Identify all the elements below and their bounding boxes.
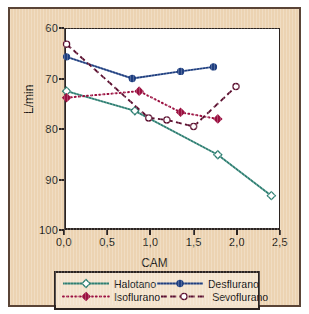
legend-label-sevoflurano: Sevoflurano bbox=[212, 291, 268, 303]
series-halotano bbox=[63, 87, 276, 200]
y-tick-label: 100 bbox=[39, 224, 58, 236]
data-point bbox=[63, 41, 69, 47]
legend-row-1: Halotano Desflurano bbox=[62, 277, 252, 290]
y-tick-label: 90 bbox=[45, 174, 58, 186]
x-tick-label: 0,0 bbox=[56, 236, 72, 248]
legend-label-halotano: Halotano bbox=[114, 278, 156, 290]
chart-legend: Halotano Desflurano Isoflurano Sevoflura… bbox=[54, 271, 260, 310]
x-axis-label: CAM bbox=[10, 256, 299, 270]
data-point bbox=[214, 115, 222, 123]
legend-swatch-desflurano bbox=[156, 277, 204, 290]
x-tick-mark bbox=[106, 230, 108, 235]
legend-marker bbox=[181, 293, 187, 299]
legend-label-isoflurano: Isoflurano bbox=[114, 291, 160, 303]
legend-swatch-halotano bbox=[62, 277, 110, 290]
y-axis-label: L/min bbox=[22, 85, 36, 114]
legend-marker bbox=[82, 280, 90, 288]
data-point bbox=[63, 94, 71, 102]
data-point bbox=[177, 108, 185, 116]
series-line bbox=[67, 44, 236, 126]
legend-item-desflurano[interactable]: Desflurano bbox=[156, 277, 259, 290]
x-tick-label: 1,0 bbox=[142, 236, 158, 248]
x-tick-label: 0,5 bbox=[99, 236, 115, 248]
y-tick-label: 80 bbox=[45, 123, 58, 135]
data-point bbox=[146, 115, 152, 121]
data-point bbox=[191, 123, 197, 129]
plot-area: 10090807060 0,00,51,01,52,02,5 bbox=[64, 28, 280, 230]
x-tick-label: 1,5 bbox=[186, 236, 202, 248]
data-point bbox=[178, 68, 184, 74]
series-layer bbox=[64, 28, 280, 230]
x-tick-mark bbox=[149, 230, 151, 235]
legend-item-sevoflurano[interactable]: Sevoflurano bbox=[160, 290, 268, 303]
y-tick-label: 60 bbox=[45, 22, 58, 34]
x-tick-mark bbox=[193, 230, 195, 235]
legend-marker bbox=[177, 280, 183, 286]
figure-panel: L/min 10090807060 0,00,51,01,52,02,5 CAM… bbox=[8, 7, 301, 307]
legend-swatch-sevoflurano bbox=[160, 290, 208, 303]
series-desflurano bbox=[63, 54, 216, 82]
x-tick-mark bbox=[63, 230, 65, 235]
series-isoflurano bbox=[63, 87, 222, 123]
data-point bbox=[210, 64, 216, 70]
data-point bbox=[233, 83, 239, 89]
y-tick-label: 70 bbox=[45, 73, 58, 85]
series-sevoflurano bbox=[63, 41, 239, 130]
data-point bbox=[63, 54, 69, 60]
x-tick-label: 2,5 bbox=[272, 236, 288, 248]
legend-item-isoflurano[interactable]: Isoflurano bbox=[62, 290, 160, 303]
x-tick-mark bbox=[279, 230, 281, 235]
legend-row-2: Isoflurano Sevoflurano bbox=[62, 290, 252, 303]
legend-marker bbox=[82, 293, 90, 301]
data-point bbox=[164, 117, 170, 123]
x-tick-label: 2,0 bbox=[229, 236, 245, 248]
data-point bbox=[135, 87, 143, 95]
x-tick-mark bbox=[236, 230, 238, 235]
data-point bbox=[129, 75, 135, 81]
legend-swatch-isoflurano bbox=[62, 290, 110, 303]
legend-item-halotano[interactable]: Halotano bbox=[62, 277, 156, 290]
legend-label-desflurano: Desflurano bbox=[208, 278, 259, 290]
series-line bbox=[67, 57, 214, 79]
